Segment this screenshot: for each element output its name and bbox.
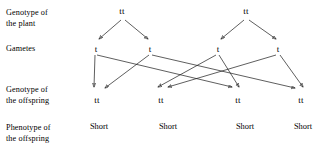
genetic-cross-diagram: Genotype of the plant Gametes Genotype o… — [0, 0, 324, 155]
offspring-phenotype-3: Short — [236, 122, 254, 132]
offspring-genotype-1: tt — [94, 95, 99, 105]
parent-genotype-1: tt — [119, 6, 124, 16]
gamete-2: t — [149, 44, 152, 54]
edge-gamete4-to-offspring4b — [280, 55, 303, 87]
parent-genotype-2: tt — [243, 6, 248, 16]
offspring-genotype-2: tt — [158, 95, 163, 105]
offspring-phenotype-1: Short — [90, 122, 108, 132]
edge-gamete1-to-offspring3 — [97, 55, 232, 87]
offspring-genotype-3: tt — [235, 95, 240, 105]
edge-gamete1-to-offspring1 — [94, 55, 95, 87]
edge-parent2-to-gamete4 — [249, 20, 276, 39]
edge-gamete2-to-offspring1b — [105, 55, 149, 88]
offspring-phenotype-2: Short — [159, 122, 177, 132]
edge-gamete2-to-offspring4 — [152, 55, 295, 88]
edge-parent2-to-gamete3 — [221, 20, 244, 39]
offspring-genotype-4: tt — [298, 95, 303, 105]
gamete-4: t — [277, 44, 280, 54]
edge-gamete3-to-offspring2 — [158, 55, 216, 87]
gamete-1: t — [95, 44, 98, 54]
offspring-phenotype-4: Short — [294, 122, 312, 132]
gamete-3: t — [217, 44, 220, 54]
edge-parent1-to-gamete2 — [125, 20, 148, 39]
edge-parent1-to-gamete1 — [99, 20, 121, 39]
